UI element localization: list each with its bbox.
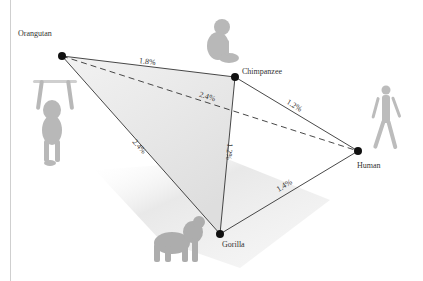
label-orangutan: Orangutan — [18, 29, 52, 38]
node-human — [354, 147, 362, 155]
node-orangutan — [58, 52, 66, 60]
label-chimpanzee: Chimpanzee — [242, 67, 282, 76]
diagram-canvas — [0, 0, 423, 281]
node-chimpanzee — [231, 73, 239, 81]
chimpanzee-sitting-icon — [207, 19, 239, 63]
phylogeny-divergence-diagram: Orangutan Chimpanzee Human Gorilla 1.8% … — [0, 0, 423, 281]
edge-chimpanzee-human — [235, 77, 358, 151]
label-human: Human — [357, 161, 381, 170]
label-gorilla: Gorilla — [222, 240, 245, 249]
edge-label-chimpanzee-gorilla: 1.2% — [224, 143, 234, 160]
edge-label-orangutan-chimpanzee: 1.8% — [139, 56, 157, 67]
orangutan-hanging-icon — [33, 80, 77, 166]
node-gorilla — [216, 230, 224, 238]
human-walking-icon — [371, 86, 401, 150]
